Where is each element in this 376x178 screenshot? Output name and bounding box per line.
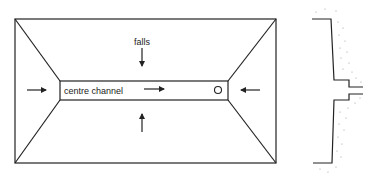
plan-view: falls centre channel xyxy=(15,19,276,163)
roof-drainage-diagram: falls centre channel xyxy=(0,0,376,178)
section-view xyxy=(312,8,363,172)
outlet-circle-icon xyxy=(215,87,222,94)
section-profile-top xyxy=(312,19,363,87)
falls-label: falls xyxy=(134,37,151,47)
stipple-fill xyxy=(315,8,361,172)
centre-channel-label: centre channel xyxy=(64,86,123,96)
hip-line-bottom-left xyxy=(15,100,60,163)
hip-line-bottom-right xyxy=(228,100,276,163)
hip-line-top-left xyxy=(15,19,60,81)
hip-line-top-right xyxy=(228,19,276,81)
section-profile-bottom xyxy=(313,94,363,163)
